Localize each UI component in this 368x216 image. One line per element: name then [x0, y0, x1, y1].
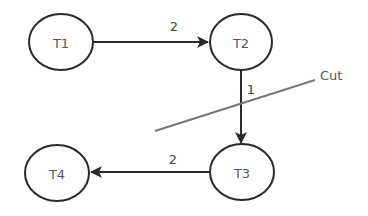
node-t3: T3: [210, 144, 274, 200]
edge-weight-label: 1: [247, 82, 255, 97]
graph-diagram: 2 1 2 Cut T1 T2 T3: [0, 0, 368, 216]
node-label: T4: [48, 167, 65, 182]
cut-line: [155, 80, 315, 131]
node-t2: T2: [210, 14, 272, 70]
cut: Cut: [155, 68, 342, 131]
node-t4: T4: [25, 145, 89, 201]
node-label: T3: [233, 166, 250, 181]
edge-t2-t3: 1: [241, 70, 255, 143]
edge-weight-label: 2: [169, 152, 177, 167]
edge-t1-t2: 2: [93, 19, 208, 42]
cut-label: Cut: [320, 68, 342, 83]
node-label: T2: [232, 36, 249, 51]
node-t1: T1: [29, 14, 93, 70]
node-label: T1: [52, 36, 69, 51]
edge-weight-label: 2: [170, 19, 178, 34]
edge-t3-t4: 2: [91, 152, 210, 172]
